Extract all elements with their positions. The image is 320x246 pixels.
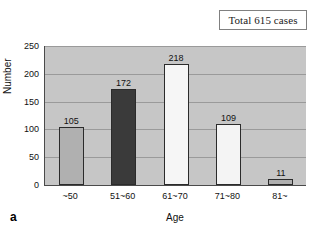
- bar[interactable]: [111, 89, 136, 185]
- x-tick-label: 81~: [272, 190, 287, 202]
- bar-chart: 10517221810911: [44, 46, 306, 186]
- bar[interactable]: [164, 64, 189, 185]
- y-tick-label: 200: [24, 69, 39, 79]
- y-axis-ticks: 050100150200250: [0, 0, 44, 246]
- bar[interactable]: [268, 179, 293, 185]
- bar-value-label: 109: [221, 113, 236, 123]
- x-axis-ticks: ~5051~6061~7071~8081~: [44, 190, 306, 204]
- total-cases-box: Total 615 cases: [219, 10, 307, 30]
- bar-slot: 109: [216, 46, 241, 185]
- bar-slot: 11: [268, 46, 293, 185]
- x-tick-label: ~50: [63, 190, 78, 202]
- bar-slot: 218: [164, 46, 189, 185]
- y-tick-label: 150: [24, 97, 39, 107]
- bar[interactable]: [216, 124, 241, 185]
- y-tick-label: 50: [29, 152, 39, 162]
- y-tick-label: 0: [34, 180, 39, 190]
- y-tick-label: 250: [24, 41, 39, 51]
- total-cases-label: Total 615 cases: [228, 14, 297, 26]
- bar-slot: 105: [59, 46, 84, 185]
- bar[interactable]: [59, 127, 84, 185]
- y-tick-label: 100: [24, 124, 39, 134]
- y-axis-title: Number: [2, 58, 13, 94]
- x-tick-label: 61~70: [162, 190, 187, 202]
- bar-series: 10517221810911: [45, 46, 306, 185]
- bar-value-label: 218: [168, 53, 183, 63]
- bar-value-label: 105: [64, 116, 79, 126]
- x-tick-label: 51~60: [110, 190, 135, 202]
- bar-value-label: 11: [276, 168, 285, 178]
- bar-value-label: 172: [116, 78, 131, 88]
- x-tick-label: 71~80: [215, 190, 240, 202]
- bar-slot: 172: [111, 46, 136, 185]
- panel-letter: a: [10, 210, 17, 224]
- x-axis-title: Age: [44, 212, 306, 223]
